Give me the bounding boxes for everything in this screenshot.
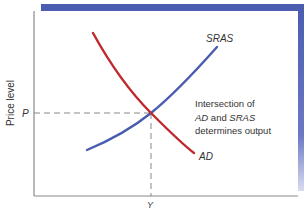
- ad-label: AD: [198, 151, 213, 162]
- sras-label: SRAS: [206, 33, 234, 44]
- annotation-line-3: determines output: [195, 125, 271, 136]
- annotation-line-2: AD and SRAS: [194, 112, 256, 123]
- annotation-line-1: Intersection of: [195, 98, 255, 109]
- y-axis-label: Price level: [5, 80, 16, 126]
- plot-panel: [34, 11, 298, 196]
- ad-sras-chart: SRAS AD Intersection of AD and SRAS dete…: [0, 0, 305, 221]
- annotation-sras: SRAS: [229, 112, 256, 123]
- x-tick-y: Y: [147, 200, 154, 210]
- annotation-and: and: [208, 112, 229, 123]
- y-tick-p: P: [22, 108, 29, 119]
- annotation-ad: AD: [194, 112, 208, 123]
